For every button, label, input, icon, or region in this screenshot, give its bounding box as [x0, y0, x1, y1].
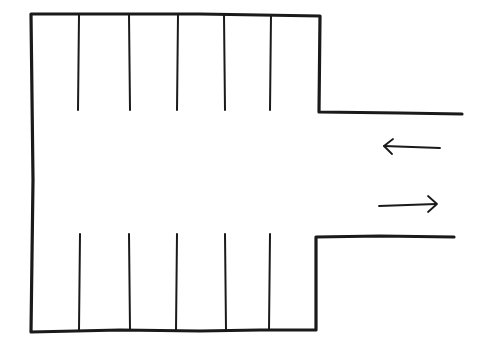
bottom-stall-divider: [129, 234, 130, 330]
top-stall-divider: [177, 15, 178, 110]
bottom-stall-divider: [269, 234, 270, 330]
bottom-stall-divider: [176, 234, 177, 330]
right-arrow-icon: [379, 196, 437, 212]
top-parking-stalls: [78, 15, 271, 110]
top-stall-divider: [270, 15, 271, 110]
top-stall-divider: [129, 15, 130, 110]
bottom-stall-divider: [79, 234, 80, 330]
top-stall-divider: [224, 15, 225, 110]
bottom-stall-divider: [225, 234, 226, 330]
left-arrow-icon: [384, 139, 440, 154]
parking-lot-diagram: [0, 0, 489, 362]
parking-lot-outline: [31, 14, 462, 332]
bottom-parking-stalls: [79, 234, 270, 330]
top-stall-divider: [78, 15, 79, 110]
